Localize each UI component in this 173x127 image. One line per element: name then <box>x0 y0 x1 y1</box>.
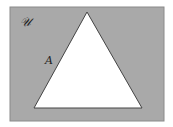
set-a-label: A <box>44 54 53 67</box>
venn-diagram: 𝒰 A <box>0 0 173 127</box>
